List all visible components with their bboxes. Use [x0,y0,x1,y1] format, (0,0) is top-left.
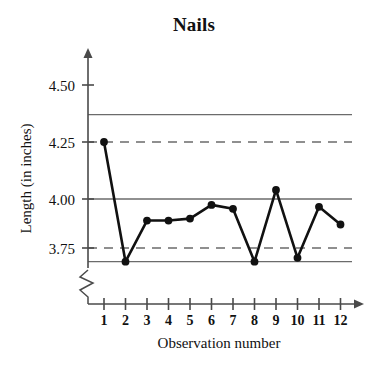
reference-lines-group [88,115,352,262]
data-point-marker [100,138,108,146]
x-axis-tick-label: 12 [334,313,348,328]
y-axis-break-icon [80,270,93,304]
data-point-marker [186,215,194,223]
y-axis-tick-label: 3.75 [49,241,75,257]
data-series-group [100,138,344,266]
plot-area: 4.504.254.003.75 123456789101112 [0,0,388,370]
data-point-marker [272,186,280,194]
x-axis-tick-label: 3 [144,313,151,328]
x-axis-tick-label: 8 [251,313,258,328]
x-axis-tick-label: 2 [122,313,129,328]
y-axis-arrow-icon [84,48,93,58]
x-axis-group: 123456789101112 [88,298,364,328]
data-point-marker [143,217,151,225]
data-point-marker [294,254,302,262]
x-axis-tick-label: 10 [291,313,305,328]
y-axis-tick-label: 4.50 [49,78,75,94]
series-line-length [104,142,341,262]
data-point-marker [229,205,237,213]
data-point-marker [251,258,259,266]
nails-control-chart: Nails Length (in inches) Observation num… [0,0,388,370]
x-axis-tick-label: 11 [312,313,325,328]
y-axis-tick-label: 4.25 [49,135,75,151]
data-point-marker [122,258,130,266]
data-point-marker [315,203,323,211]
x-axis-tick-label: 4 [165,313,172,328]
x-axis-tick-label: 6 [208,313,215,328]
data-point-marker [208,201,216,209]
y-axis-tick-label: 4.00 [49,192,75,208]
x-axis-tick-label: 9 [273,313,280,328]
data-point-marker [337,221,345,229]
x-axis-arrow-icon [354,300,364,309]
data-point-marker [165,217,173,225]
x-axis-tick-label: 1 [101,313,108,328]
x-axis-tick-label: 7 [230,313,237,328]
y-axis-group: 4.504.254.003.75 [49,48,94,304]
x-axis-tick-label: 5 [187,313,194,328]
